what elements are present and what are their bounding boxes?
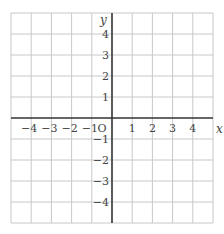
y-tick-label: −2 (93, 154, 109, 167)
x-tick-label: −4 (21, 122, 37, 135)
y-tick-label: 1 (102, 91, 109, 104)
x-tick-label: 4 (189, 122, 196, 135)
y-tick-label: −3 (93, 175, 109, 188)
origin-label: O (97, 122, 106, 135)
coordinate-plane: −4−3−2−112344321−1−2−3−4 x y O (0, 0, 224, 234)
x-tick-label: 3 (169, 122, 176, 135)
y-tick-label: 4 (102, 28, 109, 41)
y-axis-label: y (99, 13, 107, 27)
y-tick-label: 3 (102, 49, 109, 62)
x-tick-label: −2 (61, 122, 77, 135)
y-tick-label: 2 (102, 70, 109, 83)
x-axis-label: x (216, 122, 223, 136)
x-tick-label: 2 (149, 122, 156, 135)
x-tick-label: 1 (129, 122, 136, 135)
y-tick-label: −4 (93, 196, 109, 209)
axes (11, 13, 213, 223)
x-tick-label: −3 (41, 122, 57, 135)
